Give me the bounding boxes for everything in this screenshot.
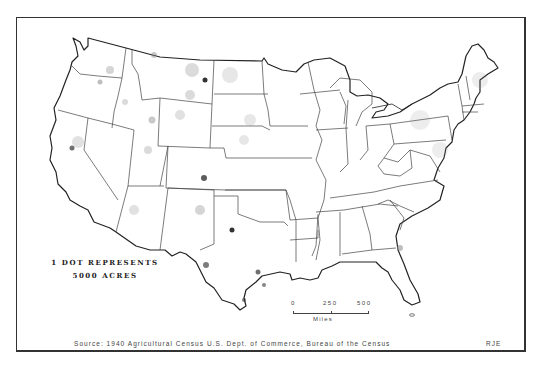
source-citation: Source: 1940 Agricultural Census U.S. De… — [74, 340, 390, 347]
florida-keys — [410, 314, 415, 317]
author-initials: RJE — [486, 340, 501, 347]
scale-tick-500: 500 — [357, 300, 372, 306]
scale-bar: 0 250 500 Miles — [289, 300, 369, 328]
scale-units: Miles — [313, 316, 333, 322]
map-legend: 1 DOT REPRESENTS 5000 ACRES — [50, 256, 160, 282]
scale-tick-250: 250 — [323, 300, 338, 306]
legend-line-1: 1 DOT REPRESENTS — [50, 256, 160, 269]
state-boundaries — [58, 48, 484, 262]
lake-erie-shore — [372, 104, 412, 110]
legend-line-2: 5000 ACRES — [50, 269, 160, 282]
scale-tick-0: 0 — [291, 300, 296, 306]
scale-mid-tick — [331, 311, 332, 313]
us-map — [0, 0, 542, 370]
